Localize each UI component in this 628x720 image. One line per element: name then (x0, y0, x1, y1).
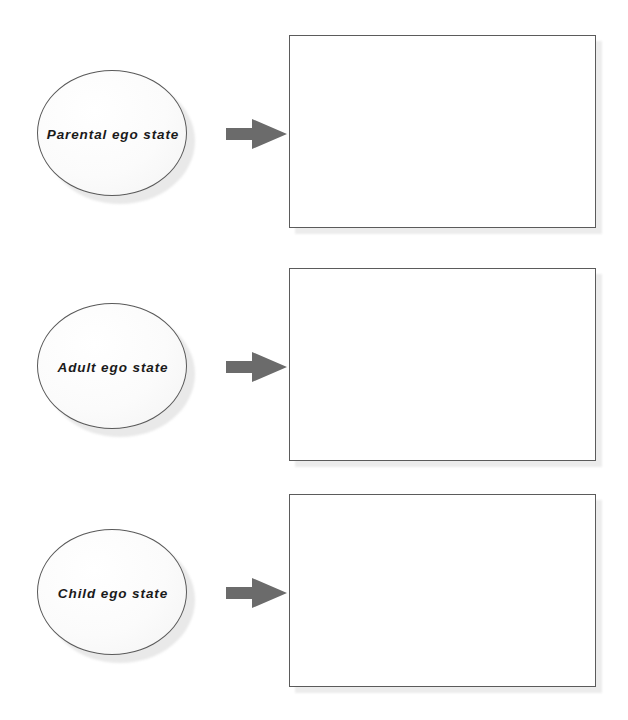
ego-state-node-adult[interactable]: Adult ego state (37, 303, 189, 431)
answer-box[interactable] (289, 268, 596, 461)
arrow-right-icon (226, 117, 288, 151)
diagram-canvas: Parental ego state Adult ego state (0, 0, 628, 720)
answer-box-field[interactable] (289, 35, 596, 228)
diagram-row: Child ego state (0, 459, 628, 699)
arrow-right-icon (226, 576, 288, 610)
ellipse-shape (37, 303, 187, 429)
answer-box[interactable] (289, 494, 596, 687)
ellipse-shape (37, 70, 187, 196)
arrow-right-icon (226, 350, 288, 384)
ego-state-node-child[interactable]: Child ego state (37, 529, 189, 657)
diagram-row: Adult ego state (0, 233, 628, 473)
answer-box-field[interactable] (289, 268, 596, 461)
answer-box-field[interactable] (289, 494, 596, 687)
ellipse-shape (37, 529, 187, 655)
answer-box[interactable] (289, 35, 596, 228)
diagram-row: Parental ego state (0, 0, 628, 240)
ego-state-node-parental[interactable]: Parental ego state (37, 70, 189, 198)
